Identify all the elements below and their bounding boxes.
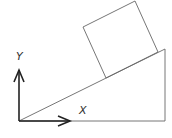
block xyxy=(83,1,158,78)
x-axis-label: X xyxy=(78,104,87,117)
incline-diagram: Y X xyxy=(0,0,172,138)
y-axis-arrow xyxy=(14,70,24,121)
y-axis-label: Y xyxy=(16,50,24,63)
